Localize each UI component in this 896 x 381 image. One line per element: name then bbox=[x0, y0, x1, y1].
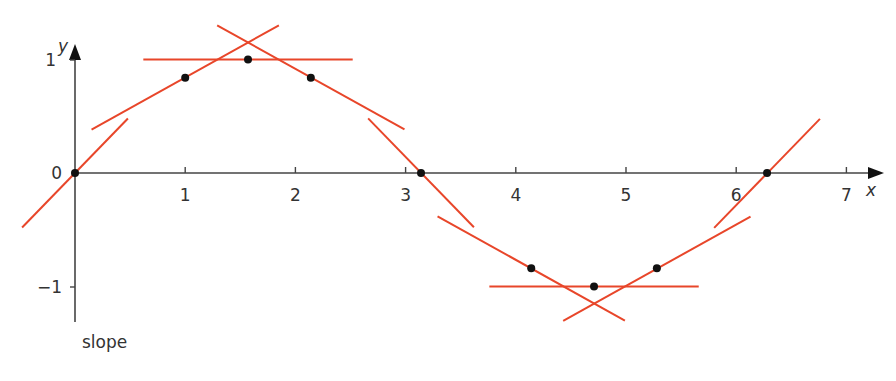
sine-tangent-chart: 1234567 1 0 −1 y x bbox=[0, 0, 896, 381]
axes bbox=[75, 58, 872, 322]
x-tick-label: 1 bbox=[180, 185, 191, 205]
x-tick-label: 5 bbox=[621, 185, 632, 205]
x-tick-label: 2 bbox=[290, 185, 301, 205]
x-tick-label: 4 bbox=[510, 185, 521, 205]
y-tick-label-1: 1 bbox=[45, 50, 56, 70]
x-tick-label: 7 bbox=[841, 185, 852, 205]
y-tick-label-neg1: −1 bbox=[37, 277, 62, 297]
data-point bbox=[590, 283, 598, 291]
slope-caption: slope bbox=[82, 332, 127, 352]
data-point bbox=[181, 74, 189, 82]
x-tick-labels: 1234567 bbox=[180, 185, 852, 205]
data-point bbox=[527, 264, 535, 272]
data-point bbox=[244, 56, 252, 64]
y-axis-arrow-icon bbox=[69, 44, 81, 60]
data-point bbox=[763, 169, 771, 177]
x-ticks bbox=[185, 167, 846, 173]
x-tick-label: 3 bbox=[400, 185, 411, 205]
y-axis-label: y bbox=[57, 36, 69, 56]
data-point bbox=[307, 74, 315, 82]
x-axis-label: x bbox=[865, 180, 877, 200]
data-point bbox=[71, 169, 79, 177]
data-point bbox=[417, 169, 425, 177]
origin-label: 0 bbox=[51, 163, 62, 183]
data-point bbox=[653, 264, 661, 272]
x-axis-arrow-icon bbox=[868, 167, 884, 179]
